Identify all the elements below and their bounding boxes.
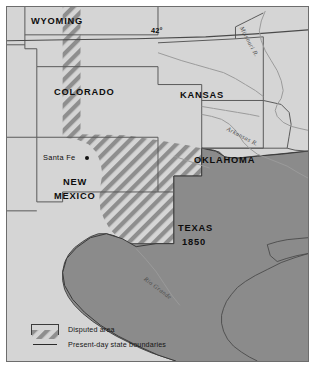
disputed-area-swatch-icon [31,324,59,335]
state-label-kansas: KANSAS [180,90,224,100]
map-container: WYOMING COLORADO KANSAS OKLAHOMA NEW MEX… [0,0,316,369]
state-label-new-mexico-line2: MEXICO [54,191,95,201]
state-label-new-mexico-line1: NEW [63,177,87,187]
state-label-oklahoma: OKLAHOMA [194,155,255,165]
legend-item-state-boundaries: Present-day state boundaries [31,337,166,352]
hatch-swatch-graphic [32,330,58,339]
state-label-wyoming: WYOMING [31,16,83,26]
map-legend: Disputed area Present-day state boundari… [31,322,166,352]
legend-label-disputed-area: Disputed area [68,325,115,334]
legend-item-disputed-area: Disputed area [31,322,166,337]
parallel-label-42: 42° [151,26,163,35]
legend-label-state-boundaries: Present-day state boundaries [68,340,166,349]
city-label-santa-fe: Santa Fe [43,153,75,162]
boundary-line-swatch-icon [31,339,59,350]
map-frame: WYOMING COLORADO KANSAS OKLAHOMA NEW MEX… [6,6,309,362]
territory-label-year: 1850 [182,237,206,247]
territory-label-texas: TEXAS [178,223,213,233]
map-graphics [7,7,308,361]
state-label-colorado: COLORADO [54,87,115,97]
